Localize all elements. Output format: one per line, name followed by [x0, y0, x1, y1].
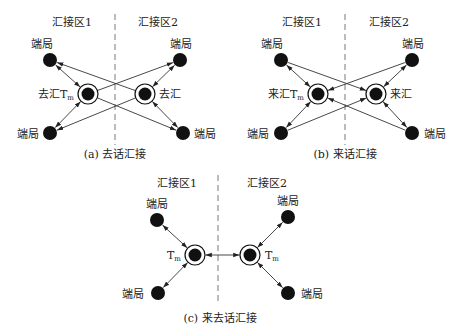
- tandem-hub-left: [78, 84, 98, 104]
- end-office-label: 端局: [402, 38, 424, 51]
- end-office-node-top-right: [405, 53, 419, 67]
- end-office-node-bottom-left: [151, 286, 165, 300]
- caption: (b) 来话汇接: [313, 148, 376, 161]
- end-office-label: 端局: [247, 128, 269, 141]
- end-office-label: 端局: [122, 288, 144, 301]
- tandem-hub-left: [185, 245, 205, 265]
- end-office-label: 端局: [31, 38, 53, 51]
- hub-left-label: 去汇Tm: [38, 88, 74, 102]
- tandem-diagrams: 汇接区1 汇接区2 端局 端局 端局 端局 去汇Tm 去汇 (a) 去话汇接 汇…: [0, 0, 456, 336]
- connection-arrow: [152, 102, 178, 128]
- end-office-label: 端局: [146, 198, 168, 211]
- caption: (c) 来去话汇接: [183, 312, 256, 325]
- end-office-node-bottom-right: [405, 126, 419, 140]
- end-office-node-top-left: [274, 53, 288, 67]
- connection-arrow: [288, 98, 366, 130]
- end-office-node-top-left: [150, 213, 164, 227]
- connection-arrow: [288, 63, 366, 91]
- panel-c: 汇接区1 汇接区2 端局 端局 端局 端局 Tm Tm (c) 来去话汇接: [122, 175, 323, 325]
- zone-1-label: 汇接区1: [282, 16, 322, 29]
- panel-b: 汇接区1 汇接区2 端局 端局 端局 端局 来汇Tm 来汇 (b) 来话汇接: [247, 14, 446, 161]
- connection-arrow: [287, 65, 311, 87]
- end-office-label: 端局: [194, 128, 216, 141]
- caption: (a) 去话汇接: [84, 148, 147, 161]
- end-office-label: 端局: [301, 288, 323, 301]
- connection-arrow: [257, 222, 282, 247]
- zone-1-label: 汇接区1: [157, 177, 197, 190]
- end-office-label: 端局: [170, 38, 192, 51]
- connection-arrow: [163, 263, 188, 288]
- tandem-hub-right: [135, 84, 155, 104]
- end-office-node-top-left: [43, 53, 57, 67]
- hub-left-label: Tm: [167, 249, 181, 263]
- connection-arrow: [153, 65, 175, 87]
- hub-right-label: 来汇: [390, 88, 412, 101]
- panel-a: 汇接区1 汇接区2 端局 端局 端局 端局 去汇Tm 去汇 (a) 去话汇接: [17, 14, 216, 161]
- end-office-label: 端局: [17, 128, 39, 141]
- edges: [286, 63, 407, 131]
- zone-2-label: 汇接区2: [369, 16, 409, 29]
- end-office-node-top-right: [173, 53, 187, 67]
- end-office-label: 端局: [424, 128, 446, 141]
- zone-2-label: 汇接区2: [138, 16, 178, 29]
- tandem-hub-right: [240, 245, 260, 265]
- connection-arrow: [56, 65, 81, 87]
- hub-right-label: Tm: [265, 249, 279, 263]
- end-office-node-bottom-left: [43, 126, 57, 140]
- connection-arrow: [383, 102, 407, 128]
- connection-arrow: [55, 102, 80, 128]
- zone-1-label: 汇接区1: [52, 16, 92, 29]
- end-office-label: 端局: [277, 195, 299, 208]
- connection-arrow: [328, 63, 405, 91]
- connection-arrow: [163, 225, 188, 248]
- end-office-label: 端局: [261, 38, 283, 51]
- end-office-node-bottom-right: [176, 126, 190, 140]
- connection-arrow: [98, 63, 173, 91]
- end-office-node-bottom-left: [274, 126, 288, 140]
- hub-left-label: 来汇Tm: [268, 88, 304, 102]
- tandem-hub-right: [366, 84, 386, 104]
- connection-arrow: [384, 65, 407, 87]
- end-office-node-top-right: [281, 210, 295, 224]
- connection-arrow: [257, 262, 282, 287]
- connection-arrow: [286, 102, 311, 128]
- connection-arrow: [328, 98, 405, 130]
- zone-2-label: 汇接区2: [247, 177, 287, 190]
- tandem-hub-left: [308, 84, 328, 104]
- hub-right-label: 去汇: [159, 88, 181, 101]
- end-office-node-bottom-right: [281, 286, 295, 300]
